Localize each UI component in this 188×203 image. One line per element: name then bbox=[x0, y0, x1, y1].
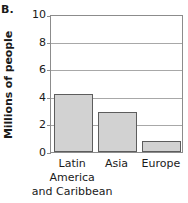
bar-series bbox=[51, 16, 182, 152]
y-axis-tick-label: 10 bbox=[6, 9, 46, 20]
y-axis-tick-label: 6 bbox=[6, 64, 46, 75]
y-axis-tick-label: 8 bbox=[6, 37, 46, 48]
figure: B. Millions of people 0246810 LatinAmeri… bbox=[0, 0, 188, 203]
bar bbox=[54, 94, 93, 152]
bar bbox=[142, 141, 181, 152]
bar bbox=[98, 112, 137, 152]
x-axis-tick-labels: LatinAmericaand CaribbeanAsiaEurope bbox=[0, 157, 188, 203]
plot-area bbox=[50, 15, 183, 153]
x-axis-tick-label-line: America bbox=[28, 171, 116, 185]
y-axis-tick bbox=[47, 153, 51, 154]
y-axis-tick-label: 4 bbox=[6, 92, 46, 103]
x-axis-tick-label-line: Europe bbox=[117, 157, 188, 171]
y-axis-tick-labels: 0246810 bbox=[2, 15, 46, 153]
x-axis-tick-label-line: and Caribbean bbox=[28, 185, 116, 199]
x-axis-tick-label: Europe bbox=[117, 157, 188, 171]
y-axis-tick-label: 2 bbox=[6, 119, 46, 130]
